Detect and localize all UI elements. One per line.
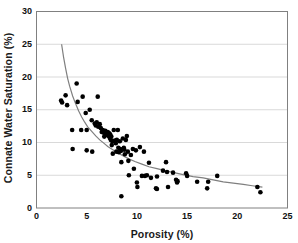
x-tick-label: 25 (278, 211, 298, 221)
data-point (134, 148, 139, 153)
y-tick-label: 25 (12, 39, 32, 49)
x-axis-title-container: Porosity (%) (36, 224, 288, 242)
data-point (129, 153, 134, 158)
data-point (155, 174, 160, 179)
x-tick-label: 20 (227, 211, 247, 221)
x-axis-title: Porosity (%) (131, 228, 193, 240)
data-point (70, 128, 75, 133)
data-point (112, 128, 117, 133)
data-point (80, 94, 85, 99)
data-point (164, 160, 169, 165)
data-point (75, 100, 80, 105)
data-point (119, 160, 124, 165)
y-tick-label: 5 (12, 170, 32, 180)
data-point (79, 128, 84, 133)
data-point (161, 168, 166, 173)
scatter-chart: Connate Water Saturation (%) Porosity (%… (0, 0, 298, 243)
data-point (135, 180, 140, 185)
data-point (90, 149, 95, 154)
data-point (149, 176, 154, 181)
data-point (60, 100, 65, 105)
data-point (205, 186, 210, 191)
trend-line (62, 44, 263, 187)
x-tick-label: 5 (77, 211, 97, 221)
data-point (142, 149, 147, 154)
data-points (59, 81, 263, 198)
data-point (145, 173, 150, 178)
data-point (70, 147, 75, 152)
data-point (87, 107, 92, 112)
data-point (206, 180, 211, 185)
y-tick-label: 30 (12, 6, 32, 16)
data-point (175, 179, 180, 184)
y-tick-label: 15 (12, 104, 32, 114)
data-point (109, 134, 114, 139)
data-point (132, 166, 137, 171)
y-tick-label: 20 (12, 72, 32, 82)
data-point (258, 190, 263, 195)
data-point (63, 93, 68, 98)
data-point (83, 111, 88, 116)
data-point (166, 185, 171, 190)
y-tick-label: 10 (12, 137, 32, 147)
data-point (165, 170, 170, 175)
data-point (138, 145, 143, 150)
data-point (74, 81, 79, 86)
data-point (84, 148, 89, 153)
data-point (126, 159, 131, 164)
data-point (171, 170, 176, 175)
x-tick-label: 15 (177, 211, 197, 221)
data-point (84, 128, 89, 133)
data-point (97, 122, 102, 127)
x-tick-label: 10 (127, 211, 147, 221)
data-point (147, 161, 152, 166)
x-tick-label: 0 (27, 211, 47, 221)
data-point (125, 134, 130, 139)
data-point (255, 185, 260, 190)
plot-area (0, 0, 298, 243)
data-point (135, 185, 140, 190)
data-point (127, 173, 132, 178)
data-point (155, 187, 160, 192)
data-point (195, 180, 200, 185)
data-point (116, 128, 121, 133)
data-point (110, 143, 115, 148)
data-point (215, 174, 220, 179)
data-point (124, 138, 129, 143)
data-point (119, 194, 124, 199)
data-point (65, 103, 70, 108)
data-point (185, 174, 190, 179)
data-point (95, 94, 100, 99)
